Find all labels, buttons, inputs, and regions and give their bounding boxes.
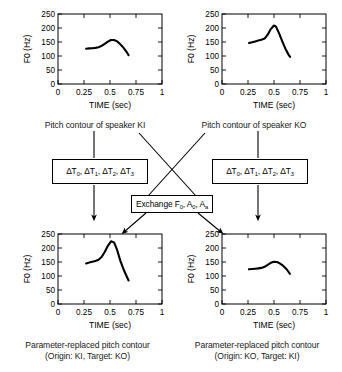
chart-bottom-right: 0 50 100 150 200 250 0 0.25 0.5 0.75 1 T… [180, 226, 335, 336]
ytick-label: 100 [41, 52, 55, 61]
caption-top-right-line1: Pitch contour of speaker KO [166, 120, 342, 131]
xtick-label: 0.5 [268, 88, 280, 97]
delta-box-left-text: ΔT0, ΔT1, ΔT2, ΔT3 [66, 166, 134, 177]
ytick-label: 50 [210, 66, 220, 75]
chart-panel-top-right: 0 50 100 150 200 250 0 0.25 0.5 0.75 1 T… [180, 6, 335, 116]
ytick-label: 50 [46, 286, 56, 295]
xtick-label: 0.5 [268, 308, 280, 317]
ytick-label: 200 [205, 24, 219, 33]
caption-bottom-left-line2: (Origin: KI, Target: KO) [0, 351, 175, 362]
delta-box-left: ΔT0, ΔT1, ΔT2, ΔT3 [52, 159, 148, 184]
exchange-box: Exchange F0, A0, Aa [131, 195, 213, 213]
plot-frame [222, 234, 326, 304]
xtick-label: 0.25 [240, 308, 256, 317]
caption-bottom-right-line2: (Origin: KO, Target: KI) [172, 351, 342, 362]
xtick-label: 0 [220, 88, 225, 97]
xtick-label: 0 [56, 308, 61, 317]
caption-bottom-right-line1: Parameter-replaced pitch contour [172, 340, 342, 351]
ytick-label: 250 [41, 10, 55, 19]
ytick-label: 150 [205, 38, 219, 47]
y-axis-title: F0 (Hz) [186, 35, 196, 64]
caption-top-right: Pitch contour of speaker KO [166, 120, 342, 131]
ytick-label: 0 [50, 80, 55, 89]
xtick-label: 0.25 [76, 88, 92, 97]
ytick-label: 100 [41, 272, 55, 281]
x-axis-title: TIME (sec) [89, 320, 131, 330]
chart-top-right: 0 50 100 150 200 250 0 0.25 0.5 0.75 1 T… [180, 6, 335, 116]
ytick-label: 250 [205, 230, 219, 239]
caption-bottom-left: Parameter-replaced pitch contour (Origin… [0, 340, 175, 362]
ytick-label: 100 [205, 52, 219, 61]
delta-box-right: ΔT0, ΔT1, ΔT2, ΔT3 [212, 159, 308, 184]
xtick-label: 0.5 [104, 88, 116, 97]
ytick-label: 150 [41, 258, 55, 267]
ytick-label: 50 [46, 66, 56, 75]
chart-bottom-left: 0 50 100 150 200 250 0 0.25 0.5 0.75 1 T… [16, 226, 171, 336]
xtick-label: 0.75 [128, 308, 144, 317]
y-axis-title: F0 (Hz) [22, 35, 32, 64]
x-axis-title: TIME (sec) [89, 100, 131, 110]
xtick-label: 0.75 [128, 88, 144, 97]
ytick-label: 0 [214, 80, 219, 89]
x-axis-title: TIME (sec) [253, 320, 295, 330]
ytick-label: 200 [41, 244, 55, 253]
xtick-label: 0.5 [104, 308, 116, 317]
xtick-label: 1 [324, 88, 329, 97]
ytick-label: 150 [205, 258, 219, 267]
xtick-label: 0 [220, 308, 225, 317]
y-axis-title: F0 (Hz) [22, 255, 32, 284]
delta-box-right-text: ΔT0, ΔT1, ΔT2, ΔT3 [226, 166, 294, 177]
ytick-label: 250 [41, 230, 55, 239]
caption-bottom-right: Parameter-replaced pitch contour (Origin… [172, 340, 342, 362]
ytick-label: 0 [214, 300, 219, 309]
chart-top-left: 0 50 100 150 200 250 0 0.25 0.5 0.75 1 T… [16, 6, 171, 116]
plot-frame [58, 14, 162, 84]
xtick-label: 0.75 [292, 88, 308, 97]
ytick-label: 200 [205, 244, 219, 253]
connector-cross-ko-to-exchange [148, 133, 205, 196]
xtick-label: 0.25 [76, 308, 92, 317]
xtick-label: 1 [160, 88, 165, 97]
ytick-label: 50 [210, 286, 220, 295]
xtick-label: 1 [160, 308, 165, 317]
ytick-label: 0 [50, 300, 55, 309]
chart-panel-top-left: 0 50 100 150 200 250 0 0.25 0.5 0.75 1 T… [16, 6, 171, 116]
xtick-label: 0.25 [240, 88, 256, 97]
y-axis-title: F0 (Hz) [186, 255, 196, 284]
xtick-label: 1 [324, 308, 329, 317]
xtick-label: 0.75 [292, 308, 308, 317]
caption-top-left-line1: Pitch contour of speaker KI [0, 120, 190, 131]
x-axis-title: TIME (sec) [253, 100, 295, 110]
caption-bottom-left-line1: Parameter-replaced pitch contour [0, 340, 175, 351]
ytick-label: 100 [205, 272, 219, 281]
ytick-label: 250 [205, 10, 219, 19]
xtick-label: 0 [56, 88, 61, 97]
caption-top-left: Pitch contour of speaker KI [0, 120, 190, 131]
ytick-label: 200 [41, 24, 55, 33]
chart-panel-bottom-left: 0 50 100 150 200 250 0 0.25 0.5 0.75 1 T… [16, 226, 171, 336]
exchange-box-text: Exchange F0, A0, Aa [136, 199, 208, 210]
ytick-label: 150 [41, 38, 55, 47]
chart-panel-bottom-right: 0 50 100 150 200 250 0 0.25 0.5 0.75 1 T… [180, 226, 335, 336]
